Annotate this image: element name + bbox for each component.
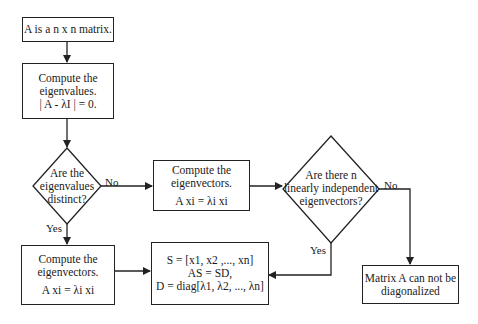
not-diagonalizable-node: Matrix A can not be diagonalized: [362, 265, 459, 304]
independent-yes-label: Yes: [310, 244, 326, 256]
independent-no-label: No: [384, 179, 397, 191]
node-line: Compute the: [38, 72, 97, 85]
compute-eigenvectors-no-node: Compute the eigenvectors. A xi = λi xi: [153, 160, 250, 211]
node-line: A xi = λi xi: [175, 195, 227, 208]
node-line: Are the: [50, 167, 84, 180]
distinct-decision-text: Are the eigenvalues distinct?: [33, 166, 101, 206]
compute-eigenvectors-yes-node: Compute the eigenvectors. A xi = λi xi: [21, 245, 115, 305]
diagonalization-result-node: S = [x1, x2 ,..., xn] AS = SD, D = diag[…: [151, 242, 269, 305]
independent-decision-text: Are there n linearly independent eigenve…: [283, 167, 379, 209]
node-line: eigenvalues: [40, 180, 94, 193]
compute-eigenvalues-node: Compute the eigenvalues. | A - λI | = 0.: [22, 63, 114, 119]
start-text: A is a n x n matrix.: [24, 23, 112, 36]
start-node: A is a n x n matrix.: [22, 17, 114, 42]
node-line: | A - λI | = 0.: [39, 98, 96, 111]
node-line: S = [x1, x2 ,..., xn]: [167, 254, 254, 267]
node-line: Compute the: [172, 164, 231, 177]
node-line: eigenvectors.: [171, 177, 232, 190]
node-line: distinct?: [48, 193, 87, 206]
node-line: eigenvalues.: [39, 85, 96, 98]
node-line: Matrix A can not be: [365, 272, 456, 285]
node-line: Are there n: [305, 169, 357, 182]
flowchart-canvas: A is a n x n matrix. Compute the eigenva…: [0, 0, 478, 324]
distinct-yes-label: Yes: [46, 222, 62, 234]
node-line: eigenvectors?: [299, 195, 362, 208]
node-line: AS = SD,: [188, 267, 233, 280]
node-line: Compute the: [38, 253, 97, 266]
node-line: eigenvectors.: [38, 266, 99, 279]
node-line: linearly independent: [284, 182, 378, 195]
node-line: diagonalized: [381, 285, 440, 298]
distinct-no-label: No: [105, 176, 118, 188]
node-line: D = diag[λ1, λ2, ..., λn]: [156, 280, 264, 293]
node-line: A xi = λi xi: [42, 284, 94, 297]
